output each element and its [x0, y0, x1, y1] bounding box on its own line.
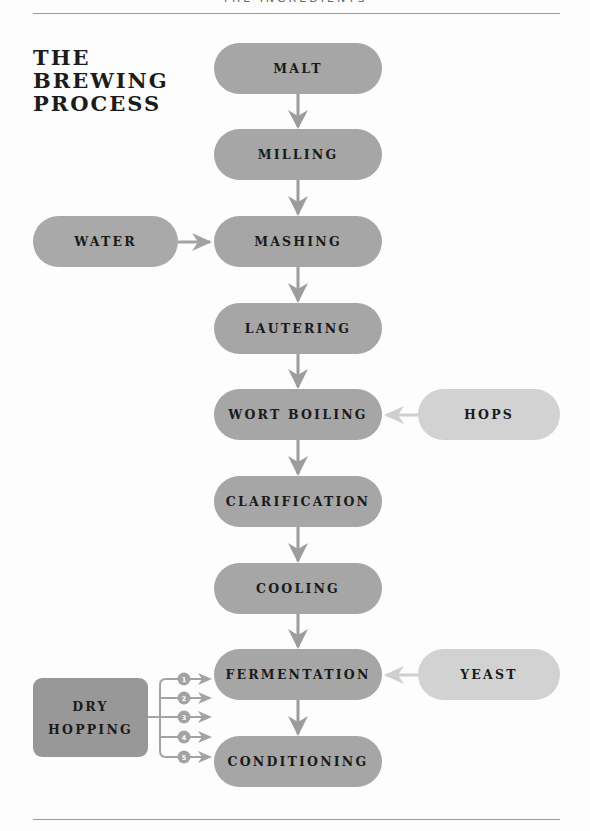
dry-hopping-line-1: DRY: [48, 695, 133, 718]
dry-hopping-box: DRY HOPPING: [33, 678, 148, 757]
dry-hopping-line-2: HOPPING: [48, 718, 133, 741]
input-yeast: YEAST: [418, 649, 560, 700]
step-milling: MILLING: [214, 129, 382, 180]
step-wort-boiling: WORT BOILING: [214, 389, 382, 440]
yeast-arrow: [384, 666, 418, 684]
step-fermentation: FERMENTATION: [214, 649, 382, 700]
step-cooling: COOLING: [214, 563, 382, 614]
step-mashing: MASHING: [214, 216, 382, 267]
dry-hopping-stage-badges: 1 2 3 4 5: [178, 673, 191, 764]
hops-arrow: [384, 406, 418, 424]
step-clarification: CLARIFICATION: [214, 476, 382, 527]
step-lautering: LAUTERING: [214, 303, 382, 354]
step-conditioning: CONDITIONING: [214, 736, 382, 787]
stage-4: 4: [182, 734, 187, 742]
water-arrow: [178, 233, 212, 251]
stage-2: 2: [182, 695, 187, 703]
stage-5: 5: [182, 754, 187, 762]
step-malt: MALT: [214, 43, 382, 94]
input-hops: HOPS: [418, 389, 560, 440]
input-water: WATER: [33, 216, 178, 267]
footer-divider: [33, 819, 560, 820]
stage-3: 3: [182, 714, 187, 722]
stage-1: 1: [182, 676, 187, 684]
